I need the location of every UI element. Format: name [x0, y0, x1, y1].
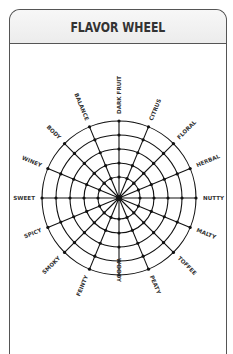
intersection-dot [88, 125, 91, 128]
intersection-dot [180, 196, 183, 199]
intersection-dot [163, 178, 166, 181]
flavor-label: MALTY [196, 227, 218, 241]
intersection-dot [83, 162, 86, 165]
intersection-dot [136, 242, 139, 245]
intersection-dot [150, 210, 153, 213]
intersection-dot [152, 196, 155, 199]
intersection-dot [93, 255, 96, 258]
intersection-dot [109, 216, 112, 219]
flavor-label: HERBAL [195, 153, 221, 168]
intersection-dot [142, 138, 145, 141]
intersection-dot [189, 226, 192, 229]
intersection-dot [132, 211, 135, 214]
intersection-dot [46, 167, 49, 170]
intersection-dot [176, 221, 179, 224]
flavor-label: PEATY [149, 274, 162, 295]
intersection-dot [137, 188, 140, 191]
intersection-dot [166, 196, 169, 199]
intersection-dot [137, 204, 140, 207]
intersection-dot [147, 268, 150, 271]
intersection-dot [63, 142, 66, 145]
intersection-dot [162, 241, 165, 244]
intersection-dot [72, 178, 75, 181]
intersection-dot [125, 177, 128, 180]
intersection-dot [189, 167, 192, 170]
intersection-dot [85, 183, 88, 186]
intersection-dot [117, 175, 120, 178]
center-dot [116, 195, 122, 201]
intersection-dot [147, 125, 150, 128]
flavor-label: BODY [46, 124, 63, 141]
intersection-dot [117, 147, 120, 150]
intersection-dot [93, 221, 96, 224]
intersection-dot [162, 152, 165, 155]
flavor-label: TOFFEE [177, 255, 198, 276]
intersection-dot [152, 231, 155, 234]
intersection-dot [172, 251, 175, 254]
flavor-label: FLORAL [176, 119, 198, 141]
intersection-dot [152, 162, 155, 165]
intersection-dot [117, 217, 120, 220]
intersection-dot [172, 142, 175, 145]
intersection-dot [104, 164, 107, 167]
intersection-dot [93, 172, 96, 175]
intersection-dot [142, 255, 145, 258]
intersection-dot [68, 196, 71, 199]
intersection-dot [99, 151, 102, 154]
intersection-dot [72, 215, 75, 218]
spoke [65, 144, 119, 198]
intersection-dot [98, 204, 101, 207]
flavor-label: SPICY [23, 227, 43, 240]
intersection-dot [142, 221, 145, 224]
intersection-dot [150, 183, 153, 186]
intersection-dot [131, 164, 134, 167]
intersection-dot [54, 196, 57, 199]
intersection-dot [117, 231, 120, 234]
intersection-dot [96, 196, 99, 199]
intersection-dot [117, 133, 120, 136]
intersection-dot [99, 242, 102, 245]
intersection-dot [104, 229, 107, 232]
intersection-dot [73, 241, 76, 244]
intersection-dot [83, 231, 86, 234]
flavor-label: SWEET [13, 195, 35, 201]
intersection-dot [59, 221, 62, 224]
intersection-dot [163, 215, 166, 218]
flavor-label: FEINTY [75, 273, 89, 297]
intersection-dot [176, 172, 179, 175]
intersection-dot [136, 151, 139, 154]
intersection-dot [40, 196, 43, 199]
intersection-dot [103, 182, 106, 185]
intersection-dot [59, 172, 62, 175]
spoke [65, 198, 119, 252]
intersection-dot [117, 119, 120, 122]
intersection-dot [46, 226, 49, 229]
intersection-dot [103, 211, 106, 214]
intersection-dot [82, 196, 85, 199]
flavor-label: WINEY [21, 155, 43, 169]
flavor-label: WOODY [116, 258, 122, 283]
intersection-dot [138, 196, 141, 199]
intersection-dot [131, 229, 134, 232]
intersection-dot [125, 216, 128, 219]
intersection-dot [132, 182, 135, 185]
spoke [119, 198, 173, 252]
intersection-dot [194, 196, 197, 199]
intersection-dot [93, 138, 96, 141]
flavor-label: CITRUS [148, 98, 162, 121]
intersection-dot [117, 161, 120, 164]
flavor-label: NUTTY [203, 195, 225, 201]
flavor-label: BALANCE [73, 92, 90, 121]
intersection-dot [98, 188, 101, 191]
intersection-dot [117, 245, 120, 248]
spoke [119, 144, 173, 198]
intersection-dot [73, 152, 76, 155]
intersection-dot [142, 172, 145, 175]
flavor-label: SMOKY [41, 254, 62, 275]
flavor-label: DARK FRUIT [116, 76, 122, 114]
intersection-dot [109, 177, 112, 180]
intersection-dot [85, 210, 88, 213]
intersection-dot [63, 251, 66, 254]
intersection-dot [88, 268, 91, 271]
